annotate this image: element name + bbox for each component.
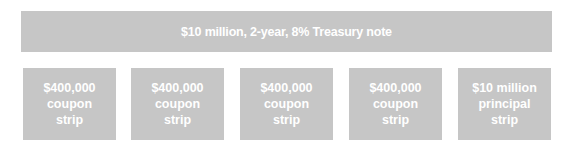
strip-word: strip [382, 112, 409, 128]
strip-amount: $400,000 [151, 80, 203, 96]
coupon-strip-box-3: $400,000 coupon strip [240, 68, 333, 140]
strip-amount: $400,000 [260, 80, 312, 96]
treasury-note-box: $10 million, 2-year, 8% Treasury note [21, 11, 552, 52]
strip-amount: $400,000 [369, 80, 421, 96]
strip-amount: $10 million [472, 80, 537, 96]
treasury-note-label: $10 million, 2-year, 8% Treasury note [181, 25, 392, 39]
strip-type: coupon [373, 96, 418, 112]
strip-type: principal [478, 96, 530, 112]
strip-word: strip [164, 112, 191, 128]
strip-word: strip [56, 112, 83, 128]
strip-word: strip [491, 112, 518, 128]
strip-type: coupon [47, 96, 92, 112]
coupon-strip-box-4: $400,000 coupon strip [349, 68, 442, 140]
coupon-strip-box-2: $400,000 coupon strip [131, 68, 224, 140]
strip-type: coupon [155, 96, 200, 112]
strip-word: strip [273, 112, 300, 128]
strip-amount: $400,000 [43, 80, 95, 96]
coupon-strip-box-1: $400,000 coupon strip [23, 68, 116, 140]
strip-type: coupon [264, 96, 309, 112]
principal-strip-box: $10 million principal strip [458, 68, 551, 140]
